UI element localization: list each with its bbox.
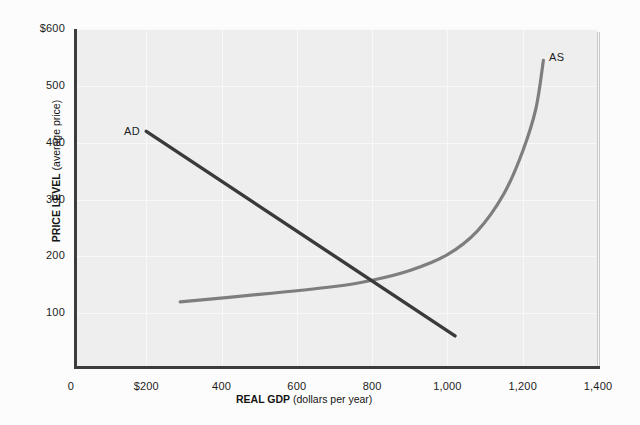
chart-page: 100200300400500$600 0$2004006008001,0001…: [0, 0, 640, 425]
as-curve-label: AS: [549, 51, 564, 63]
ad-curve-label: AD: [124, 125, 140, 137]
ad-curve: [146, 131, 455, 336]
y-axis-title: PRICE LEVEL (average price): [50, 71, 62, 271]
x-axis-title-strong: REAL GDP: [236, 393, 290, 405]
x-tick-label: 1,400: [568, 380, 628, 392]
x-axis-title-rest: (dollars per year): [290, 393, 372, 405]
x-tick-label: 400: [192, 380, 252, 392]
x-axis-title: REAL GDP (dollars per year): [236, 393, 372, 405]
y-tick-label: $600: [5, 22, 65, 34]
x-tick-label: 0: [41, 380, 101, 392]
x-tick-label: 600: [267, 380, 327, 392]
y-tick-label: 100: [5, 306, 65, 318]
curves-layer: [0, 0, 640, 425]
x-tick-label: $200: [116, 380, 176, 392]
y-axis-title-rest: (average price): [50, 100, 62, 174]
x-tick-label: 800: [342, 380, 402, 392]
as-curve: [180, 60, 543, 301]
x-tick-label: 1,200: [493, 380, 553, 392]
y-axis-title-strong: PRICE LEVEL: [50, 173, 62, 242]
x-tick-label: 1,000: [417, 380, 477, 392]
